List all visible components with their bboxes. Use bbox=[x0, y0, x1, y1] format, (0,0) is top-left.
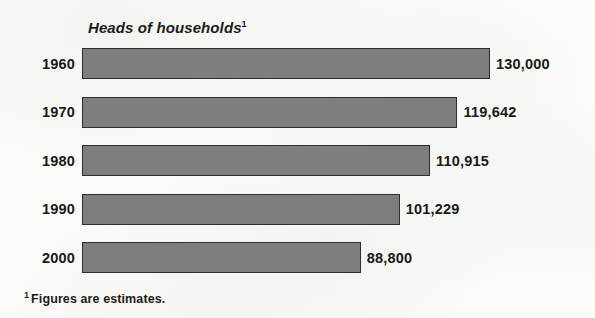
chart-title-footnote-marker: 1 bbox=[242, 19, 247, 29]
bar-row: 1960130,000 bbox=[0, 48, 595, 79]
bar-row: 1990101,229 bbox=[0, 194, 595, 225]
bar-rect bbox=[82, 97, 457, 128]
bar-value-label: 130,000 bbox=[496, 56, 550, 72]
chart-footnote: 1Figures are estimates. bbox=[24, 292, 165, 306]
bar-row: 1980110,915 bbox=[0, 145, 595, 176]
plot-area: 1960130,0001970119,6421980110,9151990101… bbox=[0, 48, 595, 280]
footnote-marker: 1 bbox=[24, 290, 29, 300]
bar-row: 1970119,642 bbox=[0, 97, 595, 128]
footnote-text: Figures are estimates. bbox=[31, 292, 165, 306]
bar-row: 200088,800 bbox=[0, 242, 595, 273]
bar-value-label: 119,642 bbox=[463, 104, 516, 120]
bar-value-label: 110,915 bbox=[436, 153, 489, 169]
bar-value-label: 101,229 bbox=[406, 201, 460, 217]
bar-category-label: 1960 bbox=[0, 56, 75, 72]
bar-category-label: 1970 bbox=[0, 104, 75, 120]
chart-title-text: Heads of households bbox=[88, 19, 242, 36]
bar-rect bbox=[82, 145, 430, 176]
bar-rect bbox=[82, 194, 400, 225]
bar-rect bbox=[82, 48, 490, 79]
bar-chart-figure: Heads of households1 1960130,0001970119,… bbox=[0, 0, 595, 318]
chart-title: Heads of households1 bbox=[88, 19, 247, 36]
bar-category-label: 1980 bbox=[0, 153, 75, 169]
bar-category-label: 1990 bbox=[0, 201, 75, 217]
bar-category-label: 2000 bbox=[0, 250, 75, 266]
bar-value-label: 88,800 bbox=[367, 250, 413, 266]
bar-rect bbox=[82, 242, 361, 273]
